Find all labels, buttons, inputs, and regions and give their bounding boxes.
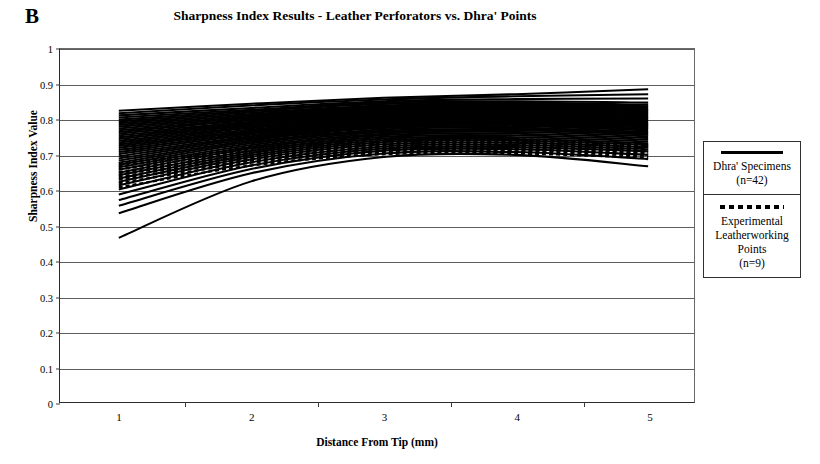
y-tick-label: 0.1 [40,363,53,374]
x-axis-title: Distance From Tip (mm) [59,436,695,448]
y-axis-title: Sharpness Index Value [27,76,39,256]
y-tick-label: 0.5 [40,221,53,232]
y-tick-label: 1 [48,44,53,55]
x-tick-mark [451,402,452,407]
series-lines [60,49,694,402]
y-tick-label: 0.2 [40,328,53,339]
x-tick-label: 3 [382,411,388,423]
y-tick-label: 0 [48,399,53,410]
x-tick-mark [584,402,585,407]
y-tick-label: 0.4 [40,257,53,268]
legend-item-dhra-specimens: Dhra' Specimens (n=42) [704,142,800,194]
legend-count-dhra: (n=42) [707,173,797,187]
y-tick-label: 0.9 [40,79,53,90]
legend-label-experimental-line2: Leatherworking [707,228,797,242]
y-tick-label: 0.6 [40,186,53,197]
x-tick-label: 1 [116,411,122,423]
solid-line-swatch-icon [721,151,783,154]
panel-label: B [25,4,39,29]
plot-area: 00.10.20.30.40.50.60.70.80.91 12345 [59,48,695,403]
y-tick-label: 0.3 [40,292,53,303]
y-tick-label: 0.7 [40,150,53,161]
x-tick-label: 2 [249,411,255,423]
figure-panel: B Sharpness Index Results - Leather Perf… [0,0,820,464]
legend-item-experimental-points: Experimental Leatherworking Points (n=9) [704,194,800,277]
x-tick-label: 4 [515,411,521,423]
x-tick-mark [185,402,186,407]
y-tick-mark [56,404,60,405]
legend: Dhra' Specimens (n=42) Experimental Leat… [703,141,801,278]
legend-label-experimental-line3: Points [707,242,797,256]
x-tick-label: 5 [647,411,653,423]
chart-title: Sharpness Index Results - Leather Perfor… [95,8,615,24]
legend-label-dhra: Dhra' Specimens [707,159,797,173]
legend-label-experimental-line1: Experimental [707,214,797,228]
y-tick-label: 0.8 [40,115,53,126]
x-tick-mark [318,402,319,407]
legend-count-experimental: (n=9) [707,256,797,270]
dashed-line-swatch-icon [720,205,784,209]
